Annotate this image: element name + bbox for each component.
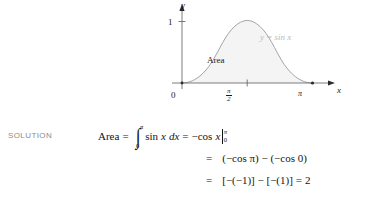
math-line-1: Area = ∫ π 0 sin x dx = −cos x π 0 bbox=[98, 124, 227, 148]
endpoint-dot-pi bbox=[311, 81, 314, 84]
equals-sign-4: = bbox=[203, 174, 215, 186]
math-line-3: = [−(−1)] − [−(1)] = 2 bbox=[203, 174, 311, 186]
curve-equation-label: y = sin x bbox=[260, 32, 291, 42]
final-result: 2 bbox=[305, 174, 311, 186]
integral-upper-limit: π bbox=[140, 123, 143, 130]
textbook-figure-page: y x 1 0 π π 2 Area y = sin x SOLUTION Ar… bbox=[0, 0, 380, 207]
solution-heading: SOLUTION bbox=[8, 131, 52, 140]
antiderivative-function: −cos bbox=[192, 130, 213, 142]
antiderivative-variable: x bbox=[215, 130, 220, 142]
evaluation-limits: π 0 bbox=[224, 129, 227, 144]
definite-integral: ∫ π 0 bbox=[135, 124, 144, 148]
sine-area-figure: y x 1 0 π π 2 Area y = sin x bbox=[150, 0, 350, 108]
equals-sign-1: = bbox=[119, 130, 131, 142]
endpoint-dot-origin bbox=[181, 82, 184, 85]
y-axis-label: y bbox=[181, 0, 185, 10]
equals-sign-3: = bbox=[203, 152, 215, 164]
area-term: Area bbox=[98, 130, 119, 142]
x-tick-label-pi-half: π 2 bbox=[226, 88, 232, 103]
differential: dx bbox=[169, 130, 179, 142]
pi-half-denominator: 2 bbox=[226, 96, 232, 103]
y-tick-label-one: 1 bbox=[168, 17, 173, 27]
integral-lower-limit: 0 bbox=[136, 142, 139, 149]
equals-sign-2: = bbox=[179, 130, 191, 142]
evaluation-bar: π 0 bbox=[222, 129, 227, 144]
integrand-variable: x bbox=[161, 130, 166, 142]
line2-expression: (−cos π) − (−cos 0) bbox=[222, 152, 307, 164]
x-tick-label-pi: π bbox=[298, 89, 302, 98]
evaluation-lower-limit: 0 bbox=[224, 137, 227, 144]
integrand-function: sin bbox=[145, 130, 158, 142]
math-line-2: = (−cos π) − (−cos 0) bbox=[203, 152, 307, 164]
equals-sign-5: = bbox=[293, 174, 305, 186]
line3-expression: [−(−1)] − [−(1)] bbox=[222, 174, 293, 186]
evaluation-upper-limit: π bbox=[224, 129, 227, 136]
area-fill bbox=[182, 20, 313, 83]
x-axis-arrowhead bbox=[328, 80, 335, 85]
x-axis-label: x bbox=[337, 85, 341, 95]
figure-svg bbox=[150, 0, 350, 108]
area-region-label: Area bbox=[207, 55, 225, 65]
origin-label: 0 bbox=[171, 90, 176, 100]
